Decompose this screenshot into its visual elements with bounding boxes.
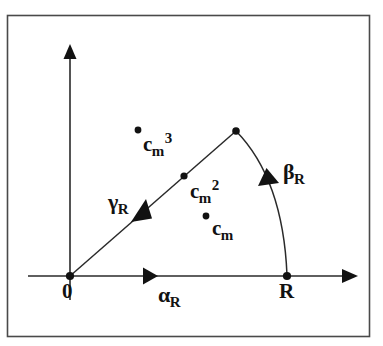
alpha-R-label: αR — [158, 284, 181, 310]
c-glyph-squared: c — [190, 179, 199, 203]
beta-R-arrow-icon — [258, 168, 279, 186]
c-glyph-cubed: c — [143, 132, 152, 156]
c-superscript-cubed: 3 — [165, 130, 173, 146]
figure-container: 0 R αR βR γR cm3 cm2 cm — [0, 0, 383, 346]
beta-R-label: βR — [283, 161, 305, 187]
c-subscript-cubed: m — [152, 143, 165, 159]
alpha-R-arrow-icon — [143, 268, 158, 285]
diagram-canvas — [0, 0, 383, 346]
point-c-m-cubed — [135, 127, 142, 134]
beta-subscript: R — [294, 171, 305, 187]
point-apex — [232, 127, 240, 135]
gamma-R-arrow-icon — [131, 199, 152, 222]
beta-glyph: β — [283, 159, 295, 184]
alpha-subscript: R — [170, 294, 181, 310]
r-point-label: R — [279, 281, 294, 302]
c-subscript: m — [221, 227, 234, 243]
c-m-label: cm — [212, 218, 233, 243]
c-superscript-squared: 2 — [212, 177, 220, 193]
gamma-subscript: R — [118, 201, 129, 217]
x-axis-arrow-icon — [342, 269, 358, 283]
gamma-glyph: γ — [108, 189, 118, 214]
c-m-cubed-label: cm3 — [143, 131, 172, 159]
c-subscript-squared: m — [199, 190, 212, 206]
gamma-R-label: γR — [108, 191, 129, 217]
y-axis-arrow-icon — [64, 44, 77, 59]
c-m-squared-label: cm2 — [190, 178, 219, 206]
alpha-glyph: α — [158, 282, 170, 307]
beta-arc — [236, 131, 287, 275]
point-c-m — [203, 213, 210, 220]
origin-label: 0 — [62, 281, 73, 302]
c-glyph: c — [212, 216, 221, 240]
point-c-m-squared — [180, 172, 187, 179]
